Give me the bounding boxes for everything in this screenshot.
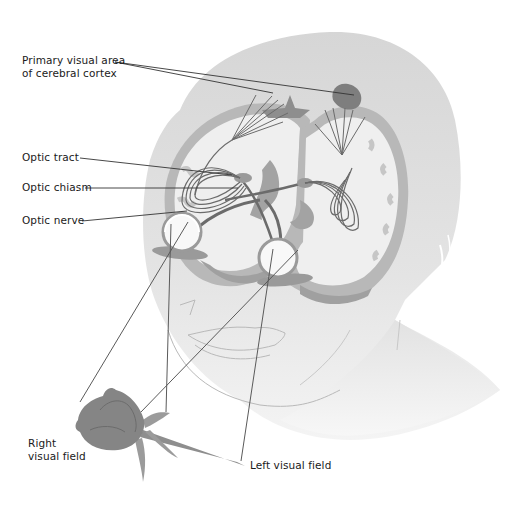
- label-left-visual-field: Left visual field: [250, 459, 331, 472]
- rose-illustration: [76, 388, 245, 482]
- label-primary-visual-area-line2: of cerebral cortex: [22, 67, 125, 80]
- label-right-visual-field: Right visual field: [28, 437, 86, 463]
- label-optic-tract: Optic tract: [22, 151, 79, 164]
- label-primary-visual-area: Primary visual area of cerebral cortex: [22, 54, 125, 80]
- label-right-visual-field-line1: Right: [28, 437, 86, 450]
- label-right-visual-field-line2: visual field: [28, 450, 86, 463]
- label-optic-nerve: Optic nerve: [22, 214, 84, 227]
- label-optic-chiasm: Optic chiasm: [22, 181, 92, 194]
- label-primary-visual-area-line1: Primary visual area: [22, 54, 125, 67]
